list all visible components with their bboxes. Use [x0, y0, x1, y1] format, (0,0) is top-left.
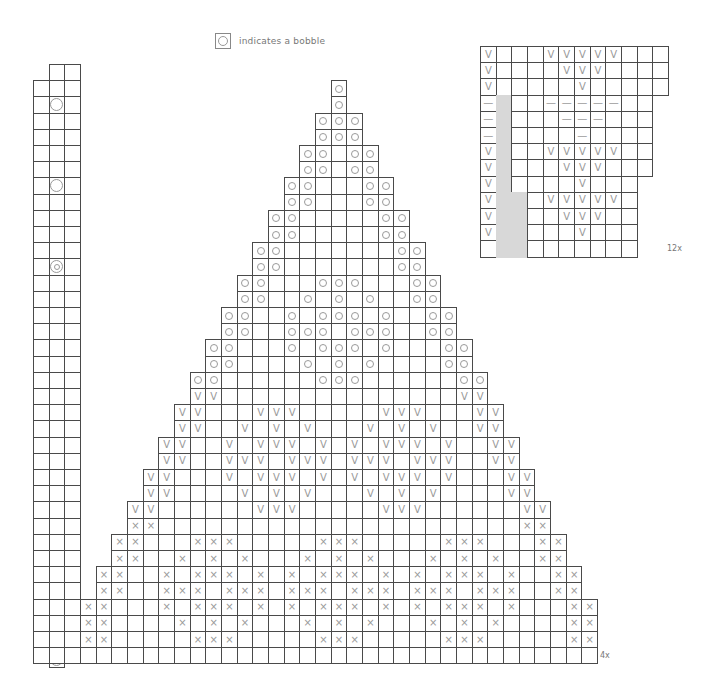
plain-cell	[558, 176, 575, 193]
plain-cell	[605, 159, 622, 176]
purl-cell: —	[480, 127, 497, 144]
plain-cell	[527, 240, 544, 257]
slip-cell: V	[480, 208, 497, 225]
plain-cell	[605, 78, 622, 95]
slip-cell: V	[590, 46, 607, 63]
slip-cell: V	[574, 208, 591, 225]
plain-cell	[605, 176, 622, 193]
plain-cell	[605, 111, 622, 128]
plain-cell	[621, 127, 638, 144]
shaded-cell	[496, 224, 513, 241]
slip-cell: V	[558, 46, 575, 63]
plain-cell	[496, 62, 513, 79]
slip-cell: V	[574, 78, 591, 95]
plain-cell	[590, 78, 607, 95]
plain-cell	[605, 127, 622, 144]
plain-cell	[511, 176, 528, 193]
plain-cell	[558, 240, 575, 257]
plain-cell	[511, 111, 528, 128]
plain-cell	[605, 62, 622, 79]
slip-cell: V	[590, 159, 607, 176]
slip-cell: V	[590, 62, 607, 79]
shaded-cell	[496, 159, 513, 176]
slip-cell: V	[480, 192, 497, 209]
plain-cell	[621, 62, 638, 79]
slip-cell: V	[480, 224, 497, 241]
plain-cell	[543, 62, 560, 79]
plain-cell	[637, 62, 654, 79]
plain-cell	[543, 240, 560, 257]
shaded-cell	[496, 240, 513, 257]
slip-cell: V	[590, 192, 607, 209]
plain-cell	[605, 224, 622, 241]
plain-cell	[480, 240, 497, 257]
slip-cell: V	[574, 176, 591, 193]
plain-cell	[605, 240, 622, 257]
plain-cell	[621, 95, 638, 112]
plain-cell	[496, 78, 513, 95]
slip-cell: V	[543, 192, 560, 209]
plain-cell	[527, 111, 544, 128]
plain-cell	[527, 62, 544, 79]
slip-cell: V	[558, 159, 575, 176]
purl-cell: —	[574, 111, 591, 128]
plain-cell	[511, 143, 528, 160]
purl-cell: —	[480, 95, 497, 112]
plain-cell	[637, 78, 654, 95]
plain-cell	[511, 127, 528, 144]
plain-cell	[558, 78, 575, 95]
slip-cell: V	[558, 143, 575, 160]
plain-cell	[543, 224, 560, 241]
plain-cell	[527, 46, 544, 63]
slip-cell: V	[543, 143, 560, 160]
side-repeat-label: 12x	[667, 244, 682, 253]
plain-cell	[527, 95, 544, 112]
plain-cell	[511, 78, 528, 95]
plain-cell	[621, 111, 638, 128]
shaded-cell	[511, 192, 528, 209]
purl-cell: —	[543, 95, 560, 112]
plain-cell	[590, 240, 607, 257]
shaded-cell	[496, 111, 513, 128]
plain-cell	[527, 224, 544, 241]
main-repeat-label: 4x	[600, 651, 610, 660]
slip-cell: V	[574, 46, 591, 63]
shaded-cell	[511, 208, 528, 225]
plain-cell	[637, 46, 654, 63]
slip-cell: V	[558, 208, 575, 225]
plain-cell	[637, 95, 654, 112]
plain-cell	[527, 192, 544, 209]
plain-cell	[527, 208, 544, 225]
plain-cell	[527, 176, 544, 193]
shaded-cell	[496, 208, 513, 225]
shaded-cell	[496, 127, 513, 144]
shaded-cell	[511, 224, 528, 241]
purl-cell: —	[558, 111, 575, 128]
plain-cell	[574, 240, 591, 257]
plain-cell	[652, 78, 669, 95]
plain-cell	[621, 192, 638, 209]
slip-cell: V	[574, 143, 591, 160]
plain-cell	[590, 127, 607, 144]
slip-cell: V	[558, 62, 575, 79]
slip-cell: V	[480, 46, 497, 63]
slip-cell: V	[590, 208, 607, 225]
slip-cell: V	[605, 46, 622, 63]
plain-cell	[621, 240, 638, 257]
shaded-cell	[496, 176, 513, 193]
plain-cell	[621, 159, 638, 176]
slip-cell: V	[574, 159, 591, 176]
purl-cell: —	[574, 95, 591, 112]
shaded-cell	[511, 240, 528, 257]
slip-cell: V	[605, 192, 622, 209]
plain-cell	[637, 143, 654, 160]
slip-cell: V	[574, 224, 591, 241]
shaded-cell	[496, 143, 513, 160]
plain-cell	[590, 176, 607, 193]
slip-cell: V	[574, 62, 591, 79]
plain-cell	[543, 127, 560, 144]
slip-cell: V	[543, 46, 560, 63]
plain-cell	[558, 127, 575, 144]
purl-cell: —	[558, 95, 575, 112]
purl-cell: —	[605, 95, 622, 112]
